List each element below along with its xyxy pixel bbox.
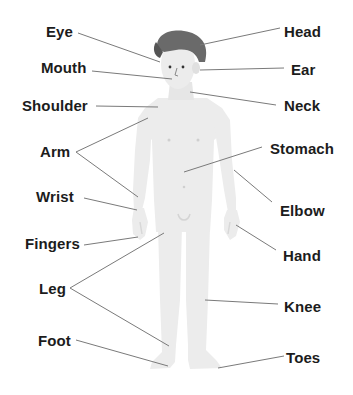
right-nipple — [197, 139, 200, 142]
knee-line — [205, 300, 278, 304]
mouth-line — [92, 71, 172, 79]
elbow-line — [234, 170, 272, 202]
label-eye: Eye — [46, 24, 73, 39]
ear-shape — [192, 62, 200, 74]
torso — [142, 98, 226, 232]
eye-line — [78, 33, 160, 62]
label-mouth: Mouth — [41, 60, 86, 75]
label-foot: Foot — [38, 333, 71, 348]
body-parts-diagram: Eye Mouth Shoulder Arm Wrist Fingers Leg… — [0, 0, 353, 395]
label-toes: Toes — [286, 350, 320, 365]
toes-line — [218, 356, 284, 368]
label-leg: Leg — [39, 281, 66, 296]
label-stomach: Stomach — [270, 141, 334, 156]
foot-line — [76, 340, 168, 366]
left-nipple — [168, 139, 171, 142]
label-shoulder: Shoulder — [22, 98, 88, 113]
left-eye — [169, 66, 172, 69]
hand-line — [236, 225, 276, 250]
label-neck: Neck — [284, 98, 320, 113]
head-line — [200, 28, 280, 45]
arm-line-lower — [76, 152, 138, 197]
right-hand — [224, 210, 240, 240]
right-leg — [186, 226, 222, 369]
label-ear: Ear — [291, 62, 316, 77]
fingers-line — [84, 237, 138, 245]
label-fingers: Fingers — [25, 236, 80, 251]
label-wrist: Wrist — [36, 189, 74, 204]
left-leg — [150, 226, 182, 369]
label-head: Head — [284, 24, 321, 39]
navel — [183, 186, 186, 189]
leg-line-upper — [70, 233, 164, 288]
label-arm: Arm — [40, 144, 70, 159]
wrist-line — [84, 198, 137, 210]
label-knee: Knee — [284, 299, 321, 314]
legs — [150, 226, 222, 369]
label-hand: Hand — [283, 248, 321, 263]
right-eye — [182, 66, 185, 69]
right-arm — [214, 108, 236, 212]
label-elbow: Elbow — [280, 203, 325, 218]
leg-line-lower — [70, 288, 169, 346]
ear-line — [200, 68, 284, 70]
